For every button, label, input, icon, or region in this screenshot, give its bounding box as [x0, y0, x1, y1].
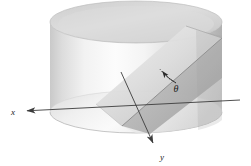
figure-canvas: x y θ: [0, 0, 251, 166]
cylinder-figure: x y θ: [0, 0, 251, 166]
right-edge-shadow: [196, 30, 222, 130]
theta-label: θ: [174, 83, 179, 94]
x-axis-label: x: [10, 107, 15, 117]
y-axis-label: y: [159, 152, 164, 162]
